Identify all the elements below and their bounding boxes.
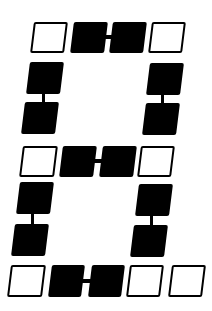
empty-cell-r2c4 — [137, 146, 175, 177]
filled-cell-l2b — [11, 224, 49, 256]
filled-cell-rt1a — [146, 63, 184, 95]
filled-cell-r2c3 — [99, 146, 137, 177]
empty-cell-r1c1 — [30, 22, 68, 53]
filled-cell-rt2a — [135, 184, 173, 216]
filled-cell-r3c2 — [48, 265, 85, 297]
filled-cell-rt1b — [142, 103, 180, 135]
empty-cell-r1c4 — [148, 22, 186, 53]
filled-cell-rt2b — [130, 225, 168, 257]
filled-cell-r1c3 — [109, 22, 147, 53]
empty-cell-r3c1 — [7, 265, 46, 297]
filled-cell-r3c3 — [88, 265, 125, 297]
filled-cell-l2a — [16, 182, 54, 214]
filled-cell-l1a — [26, 62, 64, 94]
filled-cell-r1c2 — [70, 22, 108, 53]
filled-cell-l1b — [21, 102, 59, 134]
empty-cell-r3c5 — [168, 265, 206, 297]
filled-cell-r2c2 — [59, 146, 97, 177]
empty-cell-r3c4 — [126, 265, 164, 297]
empty-cell-r2c1 — [19, 146, 58, 177]
